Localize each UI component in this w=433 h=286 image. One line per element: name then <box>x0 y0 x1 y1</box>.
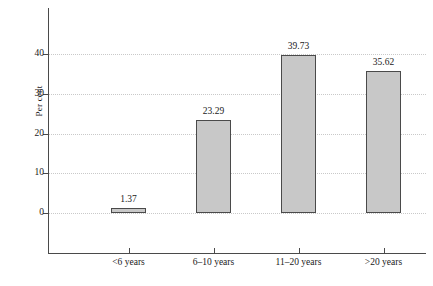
x-tick-label: <6 years <box>84 258 174 268</box>
bar[interactable] <box>281 55 316 213</box>
x-axis-line <box>48 253 426 254</box>
bar-value-label: 35.62 <box>354 58 414 68</box>
bar[interactable] <box>196 120 231 213</box>
bar[interactable] <box>366 71 401 213</box>
x-tick-label: 11–20 years <box>254 258 344 268</box>
bar-value-label: 1.37 <box>99 195 159 205</box>
plot-area: 1.3723.2939.7335.62 <box>0 0 433 286</box>
x-tick-mark <box>129 248 130 253</box>
x-tick-mark <box>214 248 215 253</box>
bar-value-label: 23.29 <box>184 107 244 117</box>
x-tick-mark <box>299 248 300 253</box>
bar-value-label: 39.73 <box>269 42 329 52</box>
x-tick-label: 6–10 years <box>169 258 259 268</box>
x-tick-label: >20 years <box>339 258 429 268</box>
bar[interactable] <box>111 208 146 213</box>
bar-chart: Per cent 010203040 1.3723.2939.7335.62 <… <box>0 0 433 286</box>
x-tick-mark <box>384 248 385 253</box>
